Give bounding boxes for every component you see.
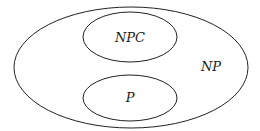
complexity-venn-diagram: NPC P NP: [0, 0, 260, 131]
p-label: P: [125, 90, 135, 105]
np-label: NP: [200, 59, 221, 74]
npc-label: NPC: [114, 30, 145, 45]
